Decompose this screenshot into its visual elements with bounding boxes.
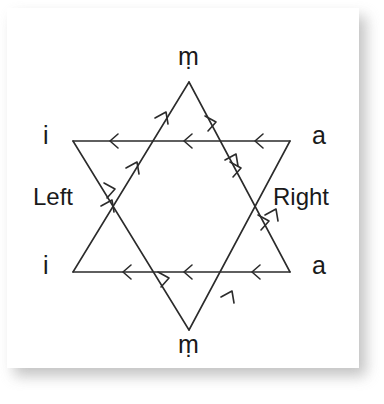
label-right-side: Right [273, 185, 329, 209]
label-bottom-m: ṃ [178, 332, 199, 357]
marker-down-right-edge-1 [221, 291, 234, 303]
figure-root: ṃ i a Left Right i a ṃ [0, 0, 384, 404]
edge-up-right [189, 82, 290, 272]
marker-down-left-edge-1 [104, 183, 115, 198]
label-lower-left-i: i [43, 253, 49, 278]
edge-up-left [73, 82, 189, 272]
label-upper-left-i: i [43, 123, 49, 148]
label-lower-right-a: a [312, 253, 326, 278]
label-left-side: Left [33, 185, 73, 209]
label-upper-right-a: a [312, 123, 326, 148]
marker-down-right-edge-3 [225, 154, 238, 166]
marker-down-left-edge-2 [158, 272, 169, 287]
edge-down-left [73, 141, 189, 330]
label-top-m: ṃ [178, 44, 199, 69]
marker-up-left-edge-1 [155, 112, 168, 124]
